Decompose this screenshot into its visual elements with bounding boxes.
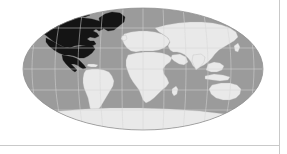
right-divider [279, 0, 280, 154]
land-caribbean [87, 64, 98, 67]
figure-root [0, 0, 287, 154]
figure-caption [0, 146, 279, 154]
world-map [0, 0, 287, 154]
graticule-layer [23, 8, 263, 130]
